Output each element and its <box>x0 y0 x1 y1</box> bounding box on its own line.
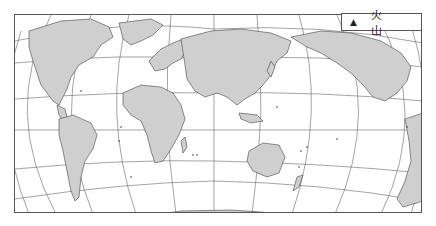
world-map <box>14 14 422 213</box>
landmasses <box>29 19 422 213</box>
southeast-asia-islands <box>239 113 263 123</box>
africa <box>123 85 185 163</box>
map-canvas <box>15 15 422 213</box>
australia <box>247 143 285 177</box>
madagascar <box>181 137 187 153</box>
north-america <box>29 19 113 105</box>
south-america-right <box>397 113 422 207</box>
south-america <box>59 115 97 201</box>
antarctica <box>161 210 281 213</box>
north-america-right <box>291 31 411 101</box>
europe <box>149 39 187 71</box>
volcano-triangle-icon: ▲ <box>350 17 357 27</box>
new-zealand <box>293 175 303 191</box>
legend-box: ▲ 火 山 <box>341 13 422 31</box>
greenland <box>119 19 163 45</box>
legend-label: 火 山 <box>371 6 421 38</box>
